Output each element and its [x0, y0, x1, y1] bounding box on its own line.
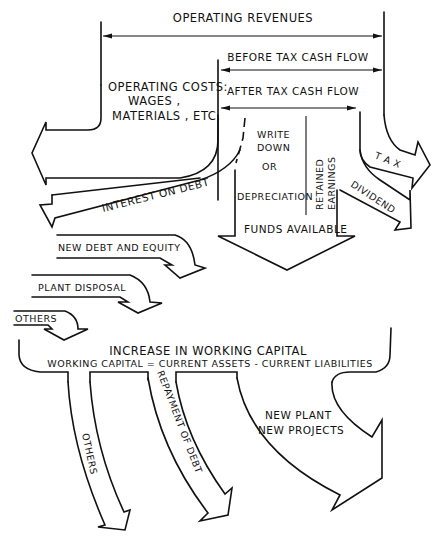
earnings-label: EARNINGS	[326, 156, 337, 210]
cash-flow-diagram: OPERATING REVENUES BEFORE TAX CASH FLOW …	[0, 0, 438, 548]
plant-disposal-arrow	[32, 275, 162, 313]
others-out-arrow	[68, 382, 130, 530]
or-label: OR	[262, 161, 277, 172]
arrowhead-left	[221, 68, 230, 73]
dividend-label: DIVIDEND	[349, 178, 398, 215]
new-plant-arrow	[237, 378, 382, 510]
arrowhead-left	[103, 34, 112, 39]
funds-available-label: FUNDS AVAILABLE	[244, 223, 347, 235]
after-tax-dimension	[221, 106, 356, 111]
repayment-of-debt-label: REPAYMENT OF DEBT	[155, 369, 205, 475]
operating-costs-arrow	[32, 85, 218, 185]
retained-label: RETAINED	[314, 159, 325, 210]
new-projects-label: NEW PROJECTS	[258, 424, 344, 436]
wages-label: WAGES ,	[128, 94, 181, 108]
working-capital-bracket-mid1	[90, 372, 148, 382]
interest-on-debt-label: INTEREST ON DEBT	[101, 176, 211, 214]
operating-costs-label: OPERATING COSTS:	[108, 80, 228, 94]
before-tax-cash-flow-label: BEFORE TAX CASH FLOW	[227, 51, 368, 63]
materials-label: MATERIALS , ETC.	[112, 109, 220, 123]
arrowhead-right	[347, 106, 356, 111]
new-debt-equity-label: NEW DEBT AND EQUITY	[58, 242, 180, 253]
depreciation-label: DEPRECIATION	[237, 191, 313, 202]
write-label: WRITE	[257, 129, 290, 140]
write-down-dashed-line	[236, 118, 245, 163]
others-out-label: OTHERS	[80, 432, 100, 475]
new-plant-label: NEW PLANT	[265, 409, 332, 421]
working-capital-bracket-mid2	[176, 372, 237, 382]
plant-disposal-label: PLANT DISPOSAL	[38, 282, 126, 293]
interest-on-debt-arrow	[40, 150, 240, 227]
arrowhead-right	[373, 34, 382, 39]
after-tax-cash-flow-label: AFTER TAX CASH FLOW	[227, 85, 359, 97]
working-capital-definition: WORKING CAPITAL = CURRENT ASSETS - CURRE…	[47, 358, 372, 369]
dividend-arrow	[340, 112, 411, 230]
increase-in-working-capital-label: INCREASE IN WORKING CAPITAL	[109, 344, 307, 358]
arrowhead-right	[373, 68, 382, 73]
down-label: DOWN	[257, 142, 290, 153]
tax-label: T A X	[372, 149, 402, 170]
operating-revenues-label: OPERATING REVENUES	[173, 11, 313, 25]
others-in-label: OTHERS	[15, 313, 57, 324]
tax-arrow	[360, 115, 430, 188]
working-capital-bracket-right	[332, 328, 391, 382]
arrowhead-left	[221, 106, 230, 111]
